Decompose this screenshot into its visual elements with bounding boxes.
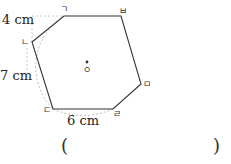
center-dot bbox=[86, 61, 89, 64]
dashed-arc bbox=[36, 16, 64, 109]
answer-close-paren: ) bbox=[213, 135, 220, 156]
figure-container: 4 cm 7 cm 6 cm ㄱ ㅂ ㅁ ㄹ ㄷ ㄴ ㅇ ( ) bbox=[0, 0, 231, 164]
vertex-label: ㅂ bbox=[119, 6, 127, 16]
vertex-label: ㄴ bbox=[21, 37, 29, 47]
vertex-label: ㅁ bbox=[143, 79, 151, 89]
vertex-label: ㄹ bbox=[113, 109, 121, 119]
center-label: ㅇ bbox=[83, 65, 91, 75]
label-6cm: 6 cm bbox=[67, 113, 99, 128]
label-7cm: 7 cm bbox=[0, 68, 32, 83]
answer-open-paren: ( bbox=[61, 135, 68, 156]
label-4cm: 4 cm bbox=[2, 12, 34, 27]
vertex-label: ㄷ bbox=[43, 105, 51, 115]
vertex-label: ㄱ bbox=[60, 4, 68, 14]
hexagon-diagram: 4 cm 7 cm 6 cm ㄱ ㅂ ㅁ ㄹ ㄷ ㄴ ㅇ ( ) bbox=[0, 0, 231, 164]
